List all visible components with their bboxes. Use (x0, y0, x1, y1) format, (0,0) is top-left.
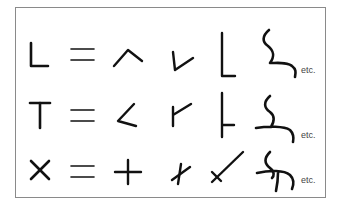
tall-T-shape (222, 93, 234, 137)
etc-label-row-X: etc. (301, 175, 316, 185)
etc-label-row-L: etc. (301, 65, 316, 75)
arrow-T-shape (118, 104, 136, 126)
T-junction-glyph (30, 103, 50, 128)
long-diagonal-cross-shape (212, 152, 243, 182)
etc-label-row-T: etc. (301, 130, 316, 140)
X-junction-glyph (31, 161, 49, 179)
caret-angle-shape (114, 50, 142, 66)
L-junction-glyph (31, 43, 48, 66)
Y-like-T-shape (173, 104, 191, 126)
squiggle-X-shape (257, 152, 293, 191)
junction-diagram (0, 0, 342, 210)
check-angle-shape (173, 52, 193, 70)
plus-shape (115, 160, 141, 184)
equals-sign (71, 110, 94, 121)
squiggle-T-shape (256, 96, 293, 142)
row-X (31, 152, 293, 191)
slanted-cross-shape (172, 164, 190, 184)
equals-sign (71, 49, 94, 60)
equals-sign (71, 166, 94, 177)
row-L (31, 30, 296, 77)
squiggle-L-shape (264, 30, 296, 77)
row-T (30, 93, 293, 142)
tall-L-shape (222, 33, 235, 76)
